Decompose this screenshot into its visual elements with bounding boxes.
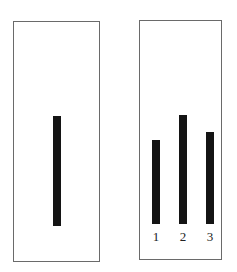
bar-label-1: 1 [149,230,163,244]
bar-label-2: 2 [176,230,190,244]
left-bar [53,116,61,226]
right-bar-1 [152,140,160,224]
right-bar-2 [179,115,187,224]
right-bar-3 [206,132,214,224]
bar-label-3: 3 [203,230,217,244]
